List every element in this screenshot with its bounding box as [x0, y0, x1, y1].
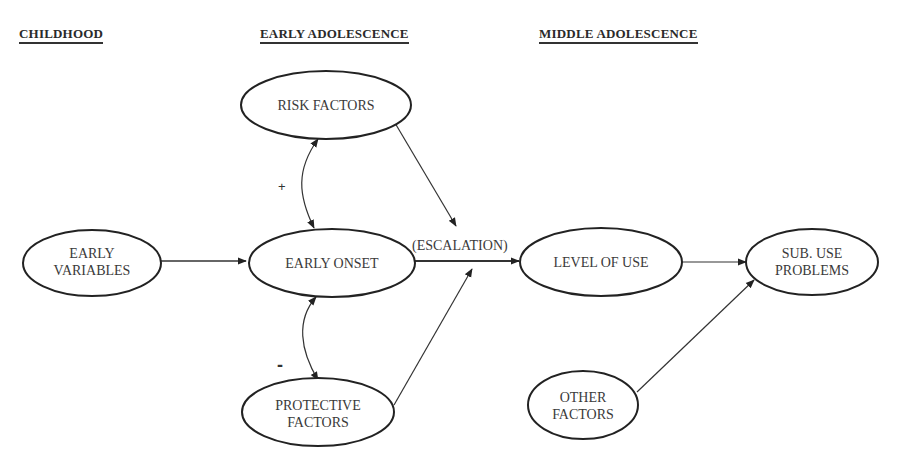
- node-level-of-use: LEVEL OF USE: [520, 228, 682, 296]
- edge-other-factors-to-sub-use-problems: [637, 280, 754, 392]
- svg-text:EARLY: EARLY: [69, 246, 114, 261]
- svg-text:PROBLEMS: PROBLEMS: [775, 263, 849, 278]
- svg-text:RISK FACTORS: RISK FACTORS: [277, 98, 374, 113]
- positive-sign-label: +: [278, 179, 286, 194]
- svg-text:VARIABLES: VARIABLES: [54, 263, 131, 278]
- edge-risk-factors-to-escalation: [395, 123, 456, 226]
- node-sub-use-problems: SUB. USE PROBLEMS: [746, 229, 878, 295]
- negative-sign-label: -: [277, 355, 283, 375]
- node-early-onset: EARLY ONSET: [249, 229, 415, 297]
- svg-text:FACTORS: FACTORS: [287, 415, 349, 430]
- path-diagram: + - (ESCALATION) RISK FACTORS EARLY VARI…: [0, 0, 899, 465]
- svg-text:FACTORS: FACTORS: [552, 407, 614, 422]
- node-risk-factors: RISK FACTORS: [241, 71, 411, 139]
- svg-text:EARLY ONSET: EARLY ONSET: [285, 256, 379, 271]
- node-protective-factors: PROTECTIVE FACTORS: [242, 378, 394, 446]
- edge-early-onset-protective-factors-correlation: [303, 297, 318, 380]
- svg-text:OTHER: OTHER: [560, 390, 607, 405]
- node-other-factors: OTHER FACTORS: [528, 371, 638, 439]
- escalation-label: (ESCALATION): [412, 238, 508, 254]
- edge-risk-factors-early-onset-correlation: [302, 139, 318, 228]
- edge-protective-factors-to-escalation: [394, 269, 472, 405]
- svg-text:LEVEL OF USE: LEVEL OF USE: [553, 255, 648, 270]
- svg-text:SUB. USE: SUB. USE: [782, 246, 843, 261]
- node-early-variables: EARLY VARIABLES: [23, 230, 161, 296]
- svg-text:PROTECTIVE: PROTECTIVE: [275, 398, 361, 413]
